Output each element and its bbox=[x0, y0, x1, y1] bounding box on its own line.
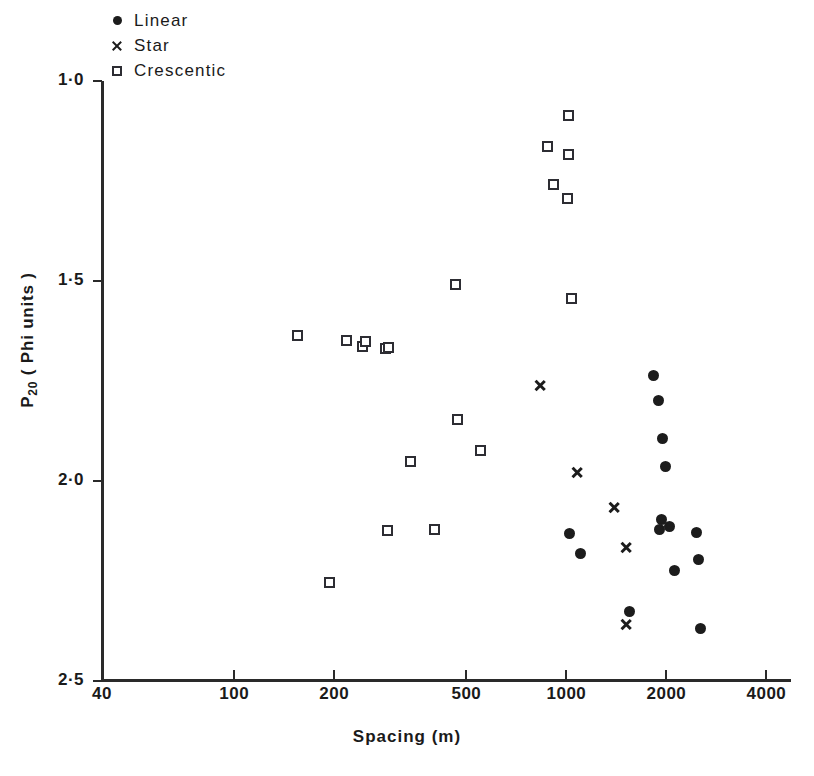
data-point-linear bbox=[653, 395, 664, 406]
data-point-crescentic bbox=[382, 525, 393, 536]
x-tick-mark bbox=[101, 670, 103, 680]
y-tick-label: 2·5 bbox=[38, 670, 84, 690]
data-point-linear bbox=[575, 548, 586, 559]
data-point-star bbox=[620, 618, 633, 631]
data-point-linear bbox=[664, 521, 675, 532]
data-point-crescentic bbox=[566, 293, 577, 304]
legend-label-star: Star bbox=[134, 36, 170, 56]
x-tick-mark bbox=[565, 670, 567, 680]
data-point-linear bbox=[654, 524, 665, 535]
data-point-linear bbox=[657, 433, 668, 444]
data-point-linear bbox=[564, 528, 575, 539]
y-tick-mark bbox=[93, 280, 102, 282]
data-point-crescentic bbox=[542, 141, 553, 152]
data-point-linear bbox=[624, 606, 635, 617]
y-tick-mark bbox=[93, 80, 102, 82]
x-tick-label: 4000 bbox=[731, 684, 801, 704]
legend-label-linear: Linear bbox=[134, 11, 188, 31]
y-axis-title-main: P bbox=[18, 396, 37, 408]
y-tick-mark bbox=[93, 680, 102, 682]
cross-x-icon bbox=[100, 40, 134, 52]
data-point-linear bbox=[691, 527, 702, 538]
x-tick-mark bbox=[665, 670, 667, 680]
x-tick-label: 500 bbox=[431, 684, 501, 704]
y-tick-label: 1·0 bbox=[38, 70, 84, 90]
x-axis-line bbox=[101, 679, 791, 682]
data-point-linear bbox=[695, 623, 706, 634]
x-tick-label: 1000 bbox=[531, 684, 601, 704]
data-point-crescentic bbox=[563, 110, 574, 121]
data-point-crescentic bbox=[562, 193, 573, 204]
x-tick-mark bbox=[765, 670, 767, 680]
chart-legend: Linear Star Crescentic bbox=[100, 8, 226, 83]
data-point-star bbox=[607, 501, 620, 514]
filled-circle-icon bbox=[100, 16, 134, 25]
x-tick-mark bbox=[233, 670, 235, 680]
y-tick-mark bbox=[93, 480, 102, 482]
data-point-crescentic bbox=[563, 149, 574, 160]
data-point-crescentic bbox=[429, 524, 440, 535]
data-point-star bbox=[533, 379, 546, 392]
x-tick-label: 200 bbox=[299, 684, 369, 704]
y-axis-title-sub: 20 bbox=[26, 381, 40, 396]
legend-label-crescentic: Crescentic bbox=[134, 61, 226, 81]
legend-item-crescentic: Crescentic bbox=[100, 58, 226, 83]
legend-item-linear: Linear bbox=[100, 8, 226, 33]
data-point-crescentic bbox=[341, 335, 352, 346]
scatter-plot-figure: Linear Star Crescentic 40100200500100020… bbox=[0, 0, 814, 776]
data-point-linear bbox=[693, 554, 704, 565]
data-point-crescentic bbox=[452, 414, 463, 425]
data-point-crescentic bbox=[450, 279, 461, 290]
y-axis-title: P20 ( Phi units ) bbox=[18, 220, 38, 460]
data-point-star bbox=[620, 541, 633, 554]
x-tick-mark bbox=[333, 670, 335, 680]
open-square-icon bbox=[100, 66, 134, 76]
legend-item-star: Star bbox=[100, 33, 226, 58]
data-point-crescentic bbox=[383, 342, 394, 353]
x-tick-label: 100 bbox=[199, 684, 269, 704]
data-point-crescentic bbox=[475, 445, 486, 456]
x-tick-mark bbox=[465, 670, 467, 680]
data-point-crescentic bbox=[324, 577, 335, 588]
y-axis-title-rest: ( Phi units ) bbox=[18, 272, 37, 375]
data-point-linear bbox=[648, 370, 659, 381]
data-point-linear bbox=[669, 565, 680, 576]
data-point-crescentic bbox=[548, 179, 559, 190]
data-point-linear bbox=[660, 461, 671, 472]
x-tick-label: 2000 bbox=[631, 684, 701, 704]
y-axis-line bbox=[101, 81, 104, 682]
data-point-crescentic bbox=[360, 336, 371, 347]
y-tick-label: 1·5 bbox=[38, 270, 84, 290]
x-axis-title: Spacing (m) bbox=[0, 727, 814, 747]
data-point-star bbox=[571, 466, 584, 479]
data-point-crescentic bbox=[292, 330, 303, 341]
data-point-crescentic bbox=[405, 456, 416, 467]
y-tick-label: 2·0 bbox=[38, 470, 84, 490]
